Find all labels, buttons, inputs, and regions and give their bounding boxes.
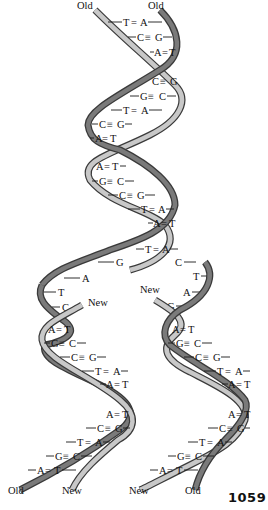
svg-text:A: A bbox=[235, 366, 243, 377]
svg-text:≡: ≡ bbox=[63, 451, 69, 462]
svg-text:=: = bbox=[236, 409, 242, 420]
svg-text:T: T bbox=[95, 366, 102, 377]
svg-text:≡: ≡ bbox=[203, 352, 209, 363]
label-new-fork-left: New bbox=[88, 297, 108, 308]
svg-text:T: T bbox=[217, 366, 224, 377]
svg-text:=: = bbox=[161, 218, 167, 229]
base-pair: C ≡ G bbox=[208, 423, 250, 434]
svg-text:C: C bbox=[119, 190, 126, 201]
svg-text:C: C bbox=[73, 451, 80, 462]
svg-text:C: C bbox=[175, 257, 182, 268]
svg-text:G: G bbox=[155, 32, 163, 43]
svg-text:=: = bbox=[207, 437, 213, 448]
svg-text:≡: ≡ bbox=[107, 176, 113, 187]
svg-text:A: A bbox=[154, 47, 162, 58]
svg-text:A: A bbox=[183, 287, 191, 298]
svg-text:G: G bbox=[237, 423, 245, 434]
base-pair: A = T bbox=[228, 409, 251, 420]
svg-text:A: A bbox=[217, 437, 225, 448]
svg-text:G: G bbox=[116, 257, 124, 268]
svg-text:A: A bbox=[95, 437, 103, 448]
svg-text:T: T bbox=[58, 287, 65, 298]
svg-text:T: T bbox=[64, 324, 71, 335]
strand-labels: Old Old New New Old New New Old bbox=[8, 0, 202, 496]
svg-text:T: T bbox=[244, 409, 251, 420]
svg-text:T: T bbox=[141, 204, 148, 215]
svg-text:C: C bbox=[152, 76, 159, 87]
svg-text:=: = bbox=[102, 133, 108, 144]
base-pair: C ≡ G bbox=[60, 352, 106, 363]
svg-text:=: = bbox=[180, 324, 186, 335]
label-new-bottom-2: New bbox=[62, 485, 82, 496]
svg-text:T: T bbox=[110, 133, 117, 144]
svg-text:A: A bbox=[37, 465, 45, 476]
svg-text:C: C bbox=[117, 176, 124, 187]
svg-text:≡: ≡ bbox=[127, 190, 133, 201]
svg-text:A: A bbox=[96, 161, 104, 172]
svg-text:A: A bbox=[158, 204, 166, 215]
label-old-bottom-4: Old bbox=[185, 485, 202, 496]
svg-text:G: G bbox=[170, 76, 178, 87]
svg-text:C: C bbox=[137, 32, 144, 43]
svg-text:G: G bbox=[137, 190, 145, 201]
svg-text:T: T bbox=[77, 437, 84, 448]
svg-text:=: = bbox=[236, 379, 242, 390]
svg-text:A: A bbox=[48, 324, 56, 335]
svg-text:≡: ≡ bbox=[105, 423, 111, 434]
svg-text:≡: ≡ bbox=[59, 338, 65, 349]
parent-helix: T = A C ≡ G A = T C ≡ G bbox=[42, 10, 182, 285]
svg-text:≡: ≡ bbox=[145, 32, 151, 43]
svg-text:A: A bbox=[172, 324, 180, 335]
svg-text:A: A bbox=[228, 409, 236, 420]
svg-text:A: A bbox=[228, 379, 236, 390]
svg-text:=: = bbox=[153, 244, 159, 255]
label-old-bottom-1: Old bbox=[8, 485, 25, 496]
svg-text:T: T bbox=[123, 105, 130, 116]
svg-text:G: G bbox=[55, 451, 63, 462]
svg-text:G: G bbox=[89, 352, 97, 363]
svg-text:C: C bbox=[99, 119, 106, 130]
svg-text:T: T bbox=[169, 47, 176, 58]
svg-text:A: A bbox=[153, 218, 161, 229]
svg-text:C: C bbox=[195, 352, 202, 363]
svg-text:G: G bbox=[213, 352, 221, 363]
svg-text:=: = bbox=[167, 465, 173, 476]
svg-text:T: T bbox=[112, 161, 119, 172]
label-old-top-right: Old bbox=[148, 0, 165, 11]
daughter-helix-right: A = T G ≡ C C ≡ G T = A bbox=[140, 262, 251, 490]
svg-text:C: C bbox=[159, 91, 166, 102]
parent-base-pairs: T = A C ≡ G A = T C ≡ G bbox=[90, 17, 178, 255]
label-new-bottom-3: New bbox=[129, 485, 149, 496]
svg-text:=: = bbox=[131, 17, 137, 28]
svg-text:T: T bbox=[169, 218, 176, 229]
base-pair: A = T bbox=[90, 133, 117, 144]
svg-text:T: T bbox=[244, 379, 251, 390]
svg-text:T: T bbox=[188, 324, 195, 335]
base-pair: A = T bbox=[48, 324, 71, 335]
svg-text:T: T bbox=[122, 379, 129, 390]
base-pair: A = T bbox=[148, 218, 176, 229]
base-pair: A = T bbox=[150, 47, 176, 58]
svg-text:≡: ≡ bbox=[148, 91, 154, 102]
svg-text:G: G bbox=[117, 119, 125, 130]
svg-text:A: A bbox=[140, 17, 148, 28]
svg-text:T: T bbox=[193, 271, 200, 282]
svg-text:=: = bbox=[114, 409, 120, 420]
svg-text:C: C bbox=[194, 338, 201, 349]
base-pair: G ≡ C bbox=[130, 91, 176, 102]
svg-text:G: G bbox=[99, 176, 107, 187]
svg-text:=: = bbox=[56, 324, 62, 335]
svg-text:=: = bbox=[103, 366, 109, 377]
svg-text:A: A bbox=[162, 244, 170, 255]
base-pair: G ≡ C bbox=[92, 176, 134, 187]
label-new-fork-right: New bbox=[140, 284, 160, 295]
svg-text:G: G bbox=[140, 91, 148, 102]
daughter-helix-left: A = T G ≡ C C ≡ G T = A bbox=[20, 285, 133, 490]
svg-text:=: = bbox=[45, 465, 51, 476]
dna-replication-diagram: T = A C ≡ G A = T C ≡ G bbox=[0, 0, 268, 510]
svg-text:T: T bbox=[54, 465, 61, 476]
svg-text:T: T bbox=[176, 465, 183, 476]
svg-text:=: = bbox=[225, 366, 231, 377]
base-pair: A = T bbox=[96, 161, 126, 172]
base-pair: A = T bbox=[106, 409, 129, 420]
